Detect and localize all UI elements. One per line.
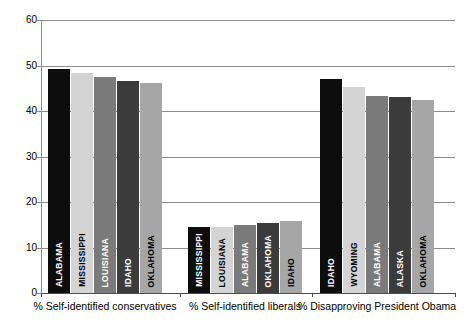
bar-label: IDAHO (117, 258, 139, 287)
bar-label: OKLAHOMA (257, 235, 279, 287)
x-tick-mark-2 (312, 293, 313, 297)
bar-label: IDAHO (320, 258, 342, 287)
bar-label: ALABAMA (48, 242, 70, 287)
y-tick-label-0: 0 (3, 288, 37, 298)
y-tick-label-40: 40 (3, 106, 37, 116)
bar-chart: 0102030405060 ALABAMAMISSISSIPPILOUISIAN… (0, 0, 464, 332)
x-axis-line (41, 293, 455, 294)
bar-label: IDAHO (280, 258, 302, 287)
category-label: % Disapproving President Obama (280, 300, 464, 313)
bar-label: LOUISIANA (211, 238, 233, 287)
y-tick-label-30: 30 (3, 152, 37, 162)
y-tick-label-50: 50 (3, 61, 37, 71)
gridline-60 (41, 20, 455, 21)
y-axis: 0102030405060 (0, 0, 37, 332)
y-tick-label-60: 60 (3, 15, 37, 25)
x-tick-mark-3 (455, 293, 456, 297)
gridline-50 (41, 66, 455, 67)
bar-label: MISSISSIPPI (188, 233, 210, 287)
bar-label: WYOMING (343, 242, 365, 287)
bar-label: OKLAHOMA (140, 235, 162, 287)
bar-label: ALABAMA (366, 242, 388, 287)
bar-label: ALABAMA (234, 242, 256, 287)
bar-label: OKLAHOMA (412, 235, 434, 287)
bar-label: ALASKA (389, 250, 411, 287)
x-tick-mark-1 (180, 293, 181, 297)
bar-label: MISSISSIPPI (71, 233, 93, 287)
y-tick-label-20: 20 (3, 197, 37, 207)
bar-label: LOUISIANA (94, 238, 116, 287)
y-axis-line (41, 20, 42, 294)
x-tick-mark-0 (41, 293, 42, 297)
y-tick-label-10: 10 (3, 243, 37, 253)
